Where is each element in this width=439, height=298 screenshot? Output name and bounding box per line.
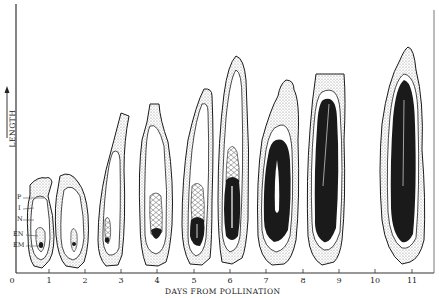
figure-drawing bbox=[0, 0, 439, 298]
x-tick-10: 10 bbox=[370, 276, 380, 285]
label-pericarp: P bbox=[17, 194, 21, 201]
kernel-day-4 bbox=[139, 104, 172, 266]
label-embryo: EM bbox=[13, 242, 24, 249]
kernel-day-7 bbox=[258, 80, 299, 265]
kernel-day-6 bbox=[218, 56, 249, 264]
x-tick-3: 3 bbox=[118, 276, 123, 285]
x-tick-8: 8 bbox=[300, 276, 305, 285]
x-tick-11: 11 bbox=[407, 276, 417, 285]
x-tick-9: 9 bbox=[336, 276, 341, 285]
x-tick-0: 0 bbox=[9, 276, 14, 285]
x-axis-title: DAYS FROM POLLINATION bbox=[165, 287, 280, 296]
x-tick-5: 5 bbox=[191, 276, 196, 285]
kernel-day-11 bbox=[380, 47, 425, 264]
x-tick-2: 2 bbox=[82, 276, 87, 285]
label-integument: I bbox=[18, 205, 21, 212]
label-endosperm: EN bbox=[13, 231, 23, 238]
x-tick-7: 7 bbox=[263, 276, 268, 285]
kernel-day-5 bbox=[182, 89, 213, 265]
x-tick-4: 4 bbox=[154, 276, 159, 285]
x-tick-1: 1 bbox=[46, 276, 51, 285]
x-tick-6: 6 bbox=[227, 276, 232, 285]
label-nucellus: N bbox=[17, 216, 23, 223]
kernel-day-1 bbox=[27, 178, 54, 269]
kernel-day-8 bbox=[307, 74, 345, 265]
kernel-day-2 bbox=[55, 174, 88, 268]
y-axis-title: LENGTH bbox=[8, 105, 17, 153]
seed-development-figure: LENGTH P I N EN EM 0 1 2 3 4 5 6 7 8 9 1… bbox=[0, 0, 439, 298]
kernel-day-3 bbox=[98, 113, 129, 266]
